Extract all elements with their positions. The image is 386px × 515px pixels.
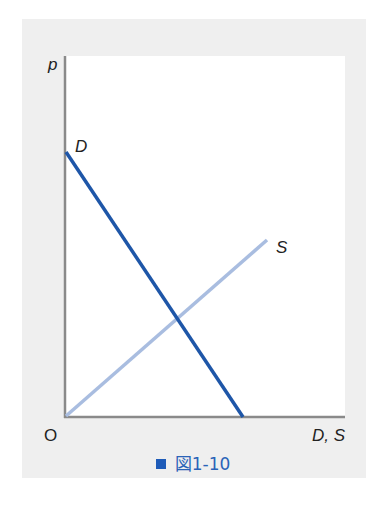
figure-caption: 図1-10 [0,453,386,475]
x-axis-label: D, S [312,426,346,445]
demand-curve-label: D [75,137,87,156]
square-bullet-icon [156,459,166,469]
caption-text: 図1-10 [175,454,231,474]
supply-demand-chart: p D S O D, S [0,0,386,515]
origin-label: O [44,426,57,445]
figure-page: p D S O D, S 図1-10 [0,0,386,515]
supply-curve-label: S [276,238,288,257]
y-axis-label: p [47,55,57,74]
